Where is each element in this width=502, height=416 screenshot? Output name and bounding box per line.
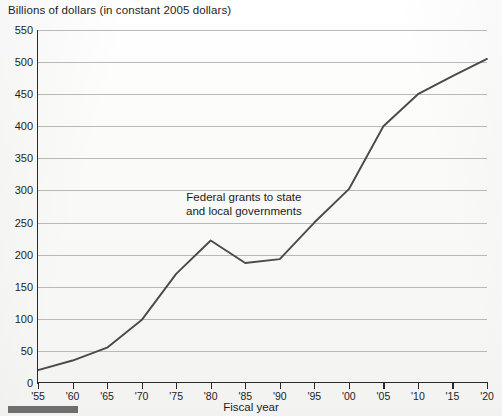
y-axis-tick-label: 500 xyxy=(0,56,33,68)
y-axis-tick-label: 200 xyxy=(0,249,33,261)
line-chart-figure: Billions of dollars (in constant 2005 do… xyxy=(0,0,502,416)
y-axis-tick-labels: 050100150200250300350400450500550 xyxy=(0,0,33,416)
series-annotation-label: Federal grants to state and local govern… xyxy=(186,190,302,218)
y-axis-tick-label: 250 xyxy=(0,217,33,229)
x-axis-tick xyxy=(349,383,350,389)
y-axis-line xyxy=(37,30,38,384)
x-axis-tick xyxy=(280,383,281,389)
chart-title: Billions of dollars (in constant 2005 do… xyxy=(8,4,231,16)
x-axis-tick xyxy=(38,383,39,389)
y-axis-tick-label: 0 xyxy=(0,377,33,389)
x-axis-tick xyxy=(107,383,108,389)
x-axis-tick xyxy=(73,383,74,389)
x-axis-tick xyxy=(211,383,212,389)
y-axis-tick-label: 450 xyxy=(0,88,33,100)
x-axis-line xyxy=(37,382,488,383)
x-axis-tick xyxy=(487,383,488,389)
x-axis-tick xyxy=(418,383,419,389)
y-axis-tick-label: 300 xyxy=(0,184,33,196)
y-axis-tick-label: 50 xyxy=(0,345,33,357)
x-axis-tick xyxy=(245,383,246,389)
x-axis-tick xyxy=(383,383,384,389)
y-axis-tick-label: 550 xyxy=(0,24,33,36)
x-axis-tick xyxy=(314,383,315,389)
y-axis-tick-label: 400 xyxy=(0,120,33,132)
y-axis-tick-label: 150 xyxy=(0,281,33,293)
y-axis-tick-label: 350 xyxy=(0,152,33,164)
x-axis-tick xyxy=(142,383,143,389)
y-axis-tick-label: 100 xyxy=(0,313,33,325)
x-axis-tick xyxy=(452,383,453,389)
page-footer-bar xyxy=(8,406,78,413)
x-axis-tick xyxy=(176,383,177,389)
